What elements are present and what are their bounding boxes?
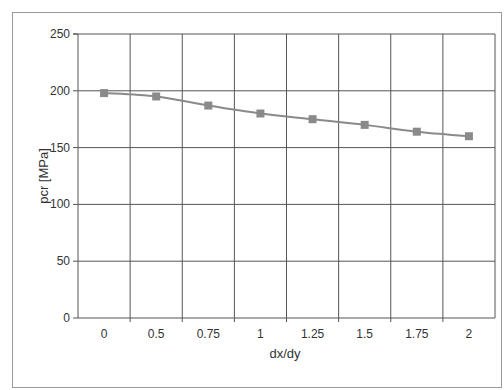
y-tick-label: 200 [50,84,70,98]
x-tick-label: 0.75 [197,327,221,341]
y-tick-label: 150 [50,141,70,155]
y-tick-label: 0 [63,311,70,325]
y-axis-label: pcr [MPa] [36,148,51,204]
x-tick-label: 0.5 [148,327,165,341]
y-tick-label: 50 [57,254,71,268]
y-axis-ticks: 050100150200250 [50,27,78,325]
y-tick-label: 250 [50,27,70,41]
data-point-marker [256,110,264,118]
data-point-marker [152,92,160,100]
data-point-marker [361,121,369,129]
data-point-marker [309,115,317,123]
data-point-marker [465,132,473,140]
x-tick-label: 1.25 [301,327,325,341]
grid-lines [73,34,495,322]
x-tick-label: 1 [257,327,264,341]
data-point-marker [204,102,212,110]
line-chart: 050100150200250 00.50.7511.251.51.752 pc… [0,0,504,390]
x-axis-ticks: 00.50.7511.251.51.752 [101,327,473,341]
x-axis-label: dx/dy [269,346,301,361]
x-tick-label: 0 [101,327,108,341]
x-tick-label: 1.5 [356,327,373,341]
x-tick-label: 2 [466,327,473,341]
data-point-marker [100,89,108,97]
data-point-marker [413,128,421,136]
x-tick-label: 1.75 [405,327,429,341]
y-tick-label: 100 [50,197,70,211]
